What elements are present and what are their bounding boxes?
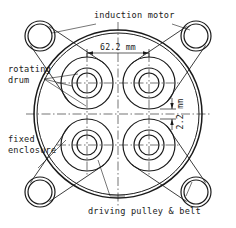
dimension-label-horizontal: 62.2 mm: [100, 42, 136, 52]
label-fixed-enclosure-line1: fixed: [8, 134, 35, 144]
label-driving-pulley-belt: driving pulley & belt: [88, 206, 201, 216]
technical-drawing-canvas: 62.2 mm 2.2 mm induct: [0, 0, 236, 228]
dimension-label-vertical: 2.2 mm: [175, 99, 185, 130]
label-fixed-enclosure-line2: enclosure: [8, 145, 56, 155]
label-induction-motor: induction motor: [94, 10, 175, 20]
mechanical-assembly-drawing: 62.2 mm 2.2 mm induct: [0, 0, 236, 228]
label-rotating-drum-line2: drum: [8, 75, 30, 85]
label-rotating-drum-line1: rotating: [8, 64, 51, 74]
